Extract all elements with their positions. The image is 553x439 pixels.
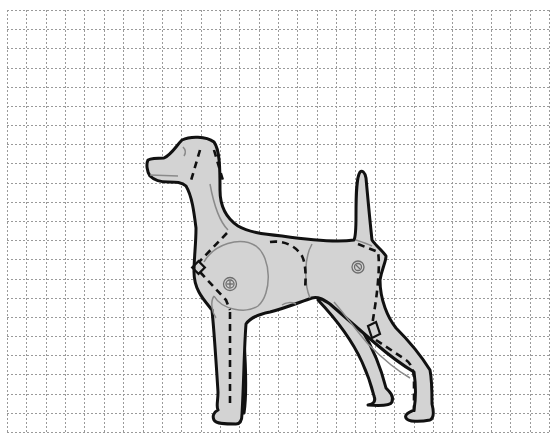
shoulder-joint-icon <box>224 278 237 291</box>
mouth-line <box>150 175 178 176</box>
dog-body <box>147 137 433 424</box>
dog-diagram <box>0 0 553 439</box>
dotted-grid <box>7 10 550 433</box>
dog-silhouette <box>147 137 433 424</box>
